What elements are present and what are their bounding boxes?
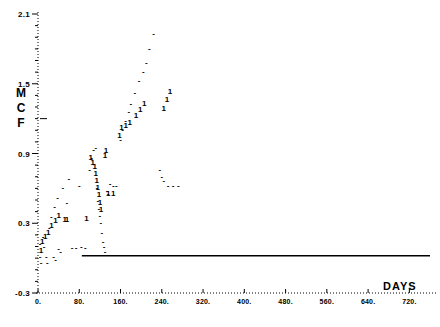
data-point-marker: 1 — [38, 247, 45, 255]
data-point-marker: 1 — [110, 190, 117, 198]
y-tick-label: 0.9 — [0, 150, 30, 159]
data-point-marker: - — [143, 59, 150, 67]
data-point-marker: - — [82, 244, 89, 252]
data-point-marker: - — [65, 175, 72, 183]
y-tick-label: -0.3 — [0, 289, 30, 298]
x-tick-label: 400. — [228, 298, 260, 305]
y-tick-label: 0.3 — [0, 219, 30, 228]
data-point-marker: 1 — [163, 96, 170, 104]
data-point-marker: - — [59, 184, 66, 192]
x-tick-label: 240. — [146, 298, 178, 305]
data-point-marker: 1 — [137, 106, 144, 114]
data-point-marker: - — [125, 108, 132, 116]
data-point-marker: - — [131, 89, 138, 97]
data-point-marker: 1 — [103, 147, 110, 155]
y-tick-label: 2.1 — [0, 10, 30, 19]
data-point-marker: 1 — [167, 88, 174, 96]
data-point-marker: - — [52, 256, 59, 264]
data-point-marker: 1 — [63, 216, 70, 224]
x-tick-label: 80. — [63, 298, 95, 305]
data-point-marker: - — [92, 144, 99, 152]
data-point-marker: 1 — [141, 100, 148, 108]
y-tick-label: 1.5 — [0, 80, 30, 89]
x-tick-label: 640. — [352, 298, 384, 305]
data-point-marker: - — [98, 229, 105, 237]
x-tick-label: 560. — [311, 298, 343, 305]
data-point-marker: - — [136, 77, 143, 85]
data-point-marker: - — [175, 182, 182, 190]
data-point-marker: - — [140, 68, 147, 76]
data-point-marker: - — [63, 199, 70, 207]
data-point-marker: - — [57, 248, 64, 256]
data-point-marker: 1 — [126, 119, 133, 127]
data-point-marker: 1 — [116, 132, 123, 140]
data-point-marker: - — [102, 248, 109, 256]
x-tick-label: 720. — [393, 298, 425, 305]
scatter-plot: M C F DAYS 2.11.50.90.3-0.3 0.80.160.240… — [0, 0, 440, 327]
data-point-marker: - — [150, 30, 157, 38]
data-point-marker: - — [51, 203, 58, 211]
data-point-marker: 1 — [45, 229, 52, 237]
data-point-marker: 1 — [97, 206, 104, 214]
x-tick-label: 160. — [105, 298, 137, 305]
data-point-marker: - — [97, 219, 104, 227]
data-point-marker: - — [54, 194, 61, 202]
x-tick-label: 0. — [22, 298, 54, 305]
x-tick-label: 320. — [187, 298, 219, 305]
x-tick-label: 480. — [270, 298, 302, 305]
data-point-marker: - — [146, 45, 153, 53]
data-point-marker: - — [76, 182, 83, 190]
data-point-marker: - — [127, 100, 134, 108]
axes-layer — [0, 0, 440, 327]
data-point-marker: 1 — [83, 215, 90, 223]
data-point-marker: 1 — [160, 105, 167, 113]
